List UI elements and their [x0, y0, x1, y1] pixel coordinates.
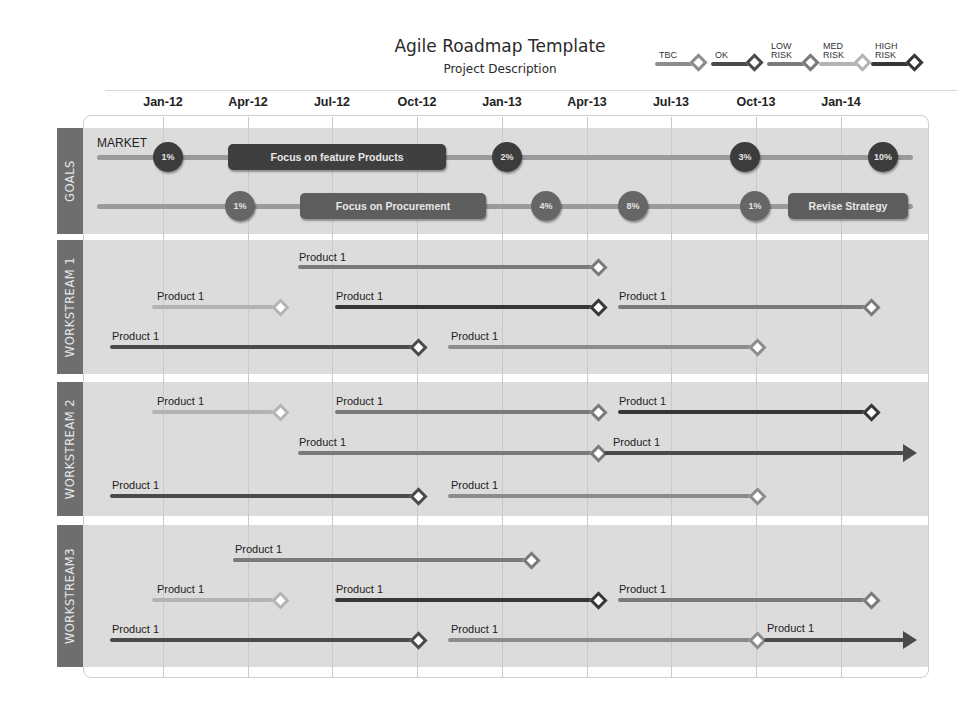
diamond-icon — [905, 53, 923, 71]
product-label: Product 1 — [451, 479, 498, 491]
product-bar[interactable] — [618, 305, 871, 309]
product-bar[interactable] — [335, 410, 598, 414]
product-bar[interactable] — [604, 451, 904, 455]
goal-milestone: 1% — [153, 142, 183, 172]
gridline — [587, 117, 588, 677]
product-bar[interactable] — [764, 638, 904, 642]
product-label: Product 1 — [619, 290, 666, 302]
section-tab: WORKSTREAM 1 — [57, 240, 83, 374]
product-label: Product 1 — [112, 330, 159, 342]
month-label: Oct-13 — [721, 95, 791, 109]
product-bar[interactable] — [618, 410, 871, 414]
goal-milestone: 4% — [531, 191, 561, 221]
product-label: Product 1 — [157, 583, 204, 595]
product-label: Product 1 — [613, 436, 660, 448]
product-bar[interactable] — [110, 638, 418, 642]
legend-item-high-risk: HIGH RISK — [871, 30, 931, 80]
section-label: WORKSTREAM 1 — [63, 257, 77, 357]
section-workstream-3: WORKSTREAM3 — [57, 525, 928, 667]
month-label: Apr-13 — [552, 95, 622, 109]
market-label: MARKET — [97, 136, 147, 150]
legend-label: OK — [715, 51, 728, 60]
month-label: Jan-13 — [467, 95, 537, 109]
goal-pill: Focus on Procurement — [300, 193, 486, 219]
goal-milestone: 2% — [492, 142, 522, 172]
goal-pill: Revise Strategy — [788, 193, 908, 219]
product-bar[interactable] — [110, 345, 418, 349]
product-bar[interactable] — [298, 265, 598, 269]
goal-milestone: 8% — [618, 191, 648, 221]
product-bar[interactable] — [335, 305, 598, 309]
diamond-icon — [689, 53, 707, 71]
section-body — [83, 525, 928, 667]
product-label: Product 1 — [112, 623, 159, 635]
legend-label: HIGH RISK — [875, 42, 898, 60]
legend-item-ok: OK — [711, 30, 763, 80]
product-label: Product 1 — [619, 583, 666, 595]
section-label: WORKSTREAM3 — [63, 548, 77, 644]
diamond-icon — [801, 53, 819, 71]
legend-item-low-risk: LOW RISK — [767, 30, 819, 80]
product-bar[interactable] — [152, 305, 280, 309]
product-label: Product 1 — [112, 479, 159, 491]
product-bar[interactable] — [335, 598, 598, 602]
product-label: Product 1 — [157, 395, 204, 407]
legend-item-tbc: TBC — [655, 30, 707, 80]
product-label: Product 1 — [157, 290, 204, 302]
page-title: Agile Roadmap Template — [360, 36, 640, 56]
product-label: Product 1 — [619, 395, 666, 407]
product-bar[interactable] — [152, 598, 280, 602]
section-label: WORKSTREAM 2 — [63, 399, 77, 499]
month-label: Oct-12 — [382, 95, 452, 109]
product-label: Product 1 — [451, 330, 498, 342]
legend-label: MED RISK — [823, 42, 844, 60]
month-label: Jul-13 — [636, 95, 706, 109]
product-label: Product 1 — [451, 623, 498, 635]
goal-milestone: 1% — [225, 191, 255, 221]
product-bar[interactable] — [152, 410, 280, 414]
goal-milestone: 1% — [740, 191, 770, 221]
legend-label: LOW RISK — [771, 42, 792, 60]
product-label: Product 1 — [336, 583, 383, 595]
header-divider — [105, 90, 957, 91]
product-label: Product 1 — [299, 251, 346, 263]
product-label: Product 1 — [767, 622, 814, 634]
product-bar[interactable] — [448, 638, 757, 642]
section-tab: GOALS — [57, 128, 83, 234]
month-label: Jul-12 — [297, 95, 367, 109]
diamond-icon — [745, 53, 763, 71]
product-label: Product 1 — [235, 543, 282, 555]
arrow-right-icon — [903, 444, 917, 462]
product-bar[interactable] — [110, 494, 418, 498]
product-bar[interactable] — [618, 598, 871, 602]
product-bar[interactable] — [448, 494, 757, 498]
gridline — [671, 117, 672, 677]
section-tab: WORKSTREAM3 — [57, 525, 83, 667]
month-label: Apr-12 — [213, 95, 283, 109]
arrow-right-icon — [903, 631, 917, 649]
month-label: Jan-14 — [806, 95, 876, 109]
product-label: Product 1 — [299, 436, 346, 448]
month-label: Jan-12 — [128, 95, 198, 109]
product-label: Product 1 — [336, 395, 383, 407]
status-legend: TBC OK LOW RISK MED RISK HIGH RISK — [655, 30, 955, 80]
goal-milestone: 3% — [730, 142, 760, 172]
product-bar[interactable] — [448, 345, 757, 349]
diamond-icon — [853, 53, 871, 71]
legend-item-med-risk: MED RISK — [819, 30, 871, 80]
product-bar[interactable] — [233, 558, 531, 562]
product-bar[interactable] — [298, 451, 598, 455]
section-tab: WORKSTREAM 2 — [57, 382, 83, 516]
legend-label: TBC — [659, 51, 677, 60]
page-subtitle: Project Description — [360, 62, 640, 76]
gridline — [502, 117, 503, 677]
section-label: GOALS — [63, 160, 77, 202]
goal-milestone: 10% — [868, 142, 898, 172]
product-label: Product 1 — [336, 290, 383, 302]
goal-pill: Focus on feature Products — [228, 144, 446, 170]
